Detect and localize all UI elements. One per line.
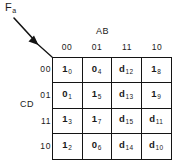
kmap-cell-content: 06: [92, 140, 102, 153]
kmap-cell-content: 19: [151, 89, 161, 102]
row-header-01: 01: [34, 83, 51, 109]
function-label: Fa: [5, 2, 16, 16]
kmap-cell: d10: [142, 134, 172, 159]
kmap-cell: 01: [53, 83, 83, 108]
kmap-cell-content: 13: [62, 114, 72, 127]
column-header-11: 11: [112, 40, 142, 54]
kmap-cell-content: 01: [62, 89, 72, 102]
kmap-cell-index: 13: [125, 93, 133, 100]
column-header-row: 00 01 11 10: [52, 40, 172, 54]
kmap-cell: d14: [112, 134, 142, 159]
kmap-cell-index: 9: [157, 93, 161, 100]
kmap-cell-index: 15: [125, 118, 133, 125]
kmap-cell-content: 10: [62, 64, 72, 77]
kmap-cell: 10: [53, 58, 83, 83]
karnaugh-map-figure: Fa AB 00 01 11 10 CD 00 01 11 10 10 04 d…: [0, 0, 178, 167]
kmap-cell-content: 12: [62, 140, 72, 153]
kmap-cell-value: 1: [62, 113, 67, 124]
kmap-grid: 10 04 d12 18 01 15 d13 19 13 17: [52, 57, 172, 160]
column-header-00: 00: [52, 40, 82, 54]
kmap-cell-value: 1: [62, 63, 67, 74]
kmap-cell-index: 12: [125, 68, 133, 75]
kmap-cell-value: 1: [92, 113, 97, 124]
kmap-cell: 13: [53, 109, 83, 134]
kmap-cell: 04: [83, 58, 113, 83]
kmap-cell: 15: [83, 83, 113, 108]
kmap-cell-value: 1: [151, 63, 156, 74]
kmap-cell-content: 17: [92, 114, 102, 127]
row-header-00: 00: [34, 57, 51, 83]
kmap-cell: 12: [53, 134, 83, 159]
row-group-label: CD: [20, 99, 34, 109]
kmap-cell-index: 3: [68, 118, 72, 125]
kmap-cell-index: 1: [68, 93, 72, 100]
column-header-10: 10: [142, 40, 172, 54]
kmap-cell-index: 0: [68, 68, 72, 75]
kmap-cell: d13: [112, 83, 142, 108]
kmap-cell: 18: [142, 58, 172, 83]
kmap-cell-content: d14: [119, 140, 133, 153]
kmap-cell-value: 1: [92, 88, 97, 99]
kmap-cell-content: d10: [149, 140, 163, 153]
kmap-cell-content: d11: [149, 114, 163, 127]
kmap-cell: d11: [142, 109, 172, 134]
kmap-cell-value: 0: [92, 139, 97, 150]
kmap-cell-content: d15: [119, 114, 133, 127]
kmap-cell: d12: [112, 58, 142, 83]
column-group-label: AB: [96, 26, 109, 36]
row-header-11: 11: [34, 109, 51, 135]
kmap-cell-index: 5: [98, 93, 102, 100]
kmap-cell-content: 15: [92, 89, 102, 102]
row-header-10: 10: [34, 134, 51, 160]
kmap-cell-index: 8: [157, 68, 161, 75]
kmap-cell-content: 18: [151, 64, 161, 77]
kmap-cell-value: 1: [151, 88, 156, 99]
kmap-cell-content: 04: [92, 64, 102, 77]
row-header-column: 00 01 11 10: [34, 57, 51, 160]
kmap-cell-index: 11: [156, 118, 164, 125]
kmap-cell: 19: [142, 83, 172, 108]
kmap-cell-index: 2: [68, 144, 72, 151]
kmap-cell-index: 14: [125, 144, 133, 151]
kmap-cell-content: d13: [119, 89, 133, 102]
function-label-subscript: a: [12, 7, 16, 14]
kmap-cell: 17: [83, 109, 113, 134]
kmap-cell-value: 1: [62, 139, 67, 150]
kmap-cell-value: d: [149, 113, 155, 124]
function-label-base: F: [5, 1, 12, 13]
column-header-01: 01: [82, 40, 112, 54]
kmap-cell-index: 4: [98, 68, 102, 75]
kmap-cell-value: 0: [62, 88, 67, 99]
kmap-cell-index: 10: [155, 144, 163, 151]
kmap-cell: 06: [83, 134, 113, 159]
kmap-cell-content: d12: [119, 64, 133, 77]
kmap-cell-index: 7: [98, 118, 102, 125]
kmap-cell-index: 6: [98, 144, 102, 151]
kmap-cell-value: 0: [92, 63, 97, 74]
kmap-cell: d15: [112, 109, 142, 134]
